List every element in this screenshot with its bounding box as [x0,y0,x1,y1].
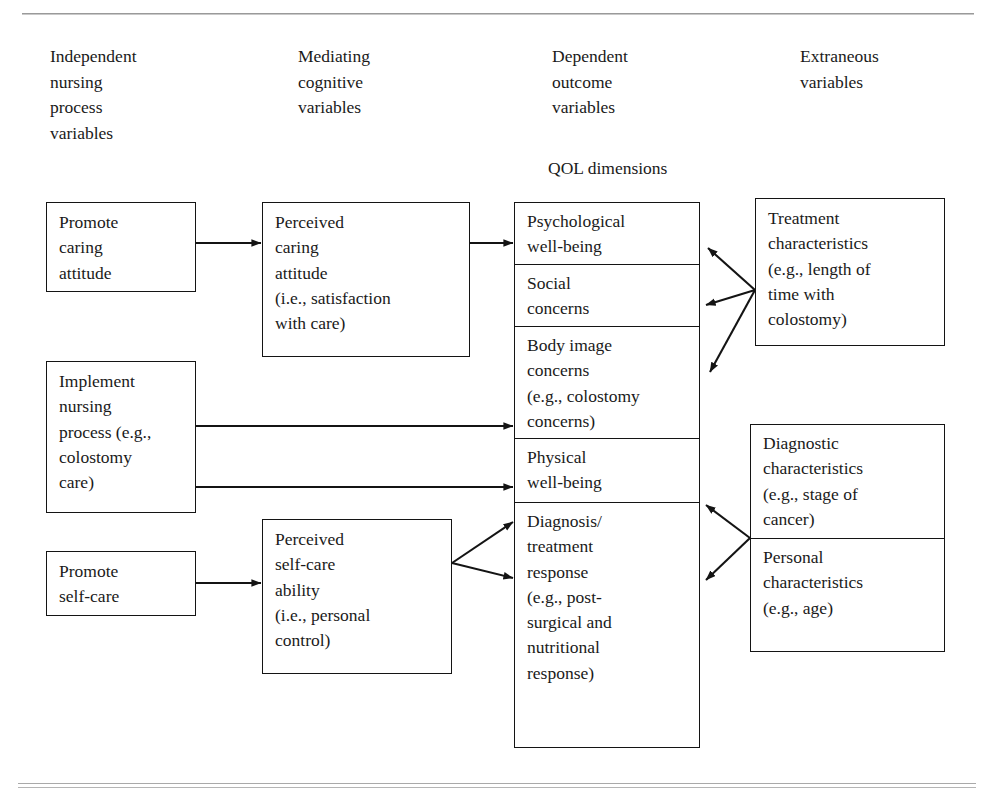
box-implement-nursing-process[interactable]: Implement nursing process (e.g., colosto… [46,361,196,513]
extraneous-lower-stack: Diagnostic characteristics (e.g., stage … [750,424,945,652]
top-rule [22,13,974,15]
arrow-selfcareability-to-physical [452,522,513,563]
qol-dimensions-stack: Psychological well-being Social concerns… [514,202,700,748]
box-treatment-characteristics-text: Treatment characteristics (e.g., length … [768,206,940,332]
arrow-extraneous-to-physical [706,505,750,538]
box-personal-characteristics[interactable]: Personal characteristics (e.g., age) [751,539,944,650]
qol-cell-physical-well-being[interactable]: Physical well-being [515,439,699,503]
bottom-rule-lower [18,787,976,788]
box-diagnostic-characteristics[interactable]: Diagnostic characteristics (e.g., stage … [751,425,944,539]
bottom-rule-upper [18,783,976,784]
box-perceived-caring-attitude-text: Perceived caring attitude (i.e., satisfa… [275,210,465,336]
page-header-note [18,0,518,12]
box-promote-self-care[interactable]: Promote self-care [46,551,196,616]
box-implement-nursing-process-text: Implement nursing process (e.g., colosto… [59,369,191,495]
box-perceived-self-care-ability[interactable]: Perceived self-care ability (i.e., perso… [262,519,452,674]
qol-cell-body-image-concerns-text: Body image concerns (e.g., colostomy con… [527,333,695,434]
qol-cell-body-image-concerns[interactable]: Body image concerns (e.g., colostomy con… [515,327,699,439]
column-header-independent: Independent nursing process variables [50,44,240,146]
column-header-mediating: Mediating cognitive variables [298,44,488,121]
box-promote-caring-attitude-text: Promote caring attitude [59,210,191,286]
box-personal-characteristics-text: Personal characteristics (e.g., age) [763,545,940,621]
arrow-treatment-to-social [706,290,755,305]
arrow-treatment-to-bodyimage [710,290,755,372]
qol-cell-psychological-well-being[interactable]: Psychological well-being [515,203,699,265]
column-header-dependent: Dependent outcome variables [552,44,742,121]
box-treatment-characteristics[interactable]: Treatment characteristics (e.g., length … [755,198,945,346]
qol-cell-diagnosis-treatment-response[interactable]: Diagnosis/ treatment response (e.g., pos… [515,503,699,746]
arrow-treatment-to-psychological [708,248,755,290]
qol-cell-physical-well-being-text: Physical well-being [527,445,695,496]
qol-cell-social-concerns[interactable]: Social concerns [515,265,699,327]
box-perceived-caring-attitude[interactable]: Perceived caring attitude (i.e., satisfa… [262,202,470,357]
column-header-extraneous: Extraneous variables [800,44,990,95]
arrow-selfcareability-to-diagnosis [452,563,513,578]
box-promote-self-care-text: Promote self-care [59,559,191,610]
qol-dimensions-label: QOL dimensions [548,156,667,181]
arrow-extraneous-to-diagnosis [706,538,750,580]
qol-cell-psychological-well-being-text: Psychological well-being [527,209,695,260]
box-diagnostic-characteristics-text: Diagnostic characteristics (e.g., stage … [763,431,940,532]
qol-cell-social-concerns-text: Social concerns [527,271,695,322]
diagram-canvas: Independent nursing process variables Me… [0,0,995,799]
box-perceived-self-care-ability-text: Perceived self-care ability (i.e., perso… [275,527,447,653]
qol-cell-diagnosis-treatment-response-text: Diagnosis/ treatment response (e.g., pos… [527,509,695,686]
box-promote-caring-attitude[interactable]: Promote caring attitude [46,202,196,292]
